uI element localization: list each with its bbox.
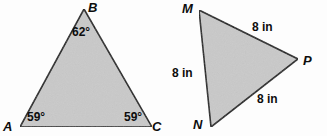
angle-label-b: 62° [72,26,90,38]
vertex-label-n: N [193,118,202,131]
side-label-np: 8 in [257,93,278,105]
angle-label-c: 59° [124,111,142,123]
vertex-label-m: M [182,2,193,15]
vertex-label-c: C [152,120,161,133]
side-label-mp: 8 in [252,21,273,33]
vertex-label-b: B [88,1,97,14]
triangle-mnp-shape [199,10,298,127]
triangles-svg [0,0,327,136]
angle-label-a: 59° [27,111,45,123]
diagram-canvas: A B C 59° 62° 59° M N P 8 in 8 in 8 in [0,0,327,136]
side-label-mn: 8 in [172,67,193,79]
vertex-label-p: P [303,54,312,67]
vertex-label-a: A [3,120,12,133]
